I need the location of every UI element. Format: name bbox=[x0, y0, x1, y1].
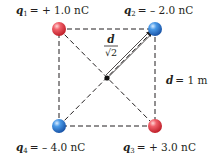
charge-square-diagram: q1= + 1.0 nC q2= – 2.0 nC q4= – 4.0 nC q… bbox=[0, 0, 213, 159]
fraction-denominator: √2 bbox=[105, 47, 117, 58]
charge-q2-label: q2= – 2.0 nC bbox=[124, 4, 193, 18]
charge-q4-sphere bbox=[52, 119, 66, 133]
center-point bbox=[104, 75, 109, 80]
charge-q1-label: q1= + 1.0 nC bbox=[16, 4, 89, 18]
charge-q1-sphere bbox=[52, 22, 66, 36]
side-length-label: d= 1 m bbox=[166, 74, 207, 86]
fraction-numerator: d bbox=[107, 33, 115, 45]
charge-q3-sphere bbox=[148, 119, 162, 133]
charge-q2-sphere bbox=[148, 22, 162, 36]
half-diagonal-label: d √2 bbox=[104, 33, 118, 58]
charge-q3-label: q3= + 3.0 nC bbox=[123, 141, 196, 155]
charge-q4-label: q4= – 4.0 nC bbox=[16, 141, 85, 155]
